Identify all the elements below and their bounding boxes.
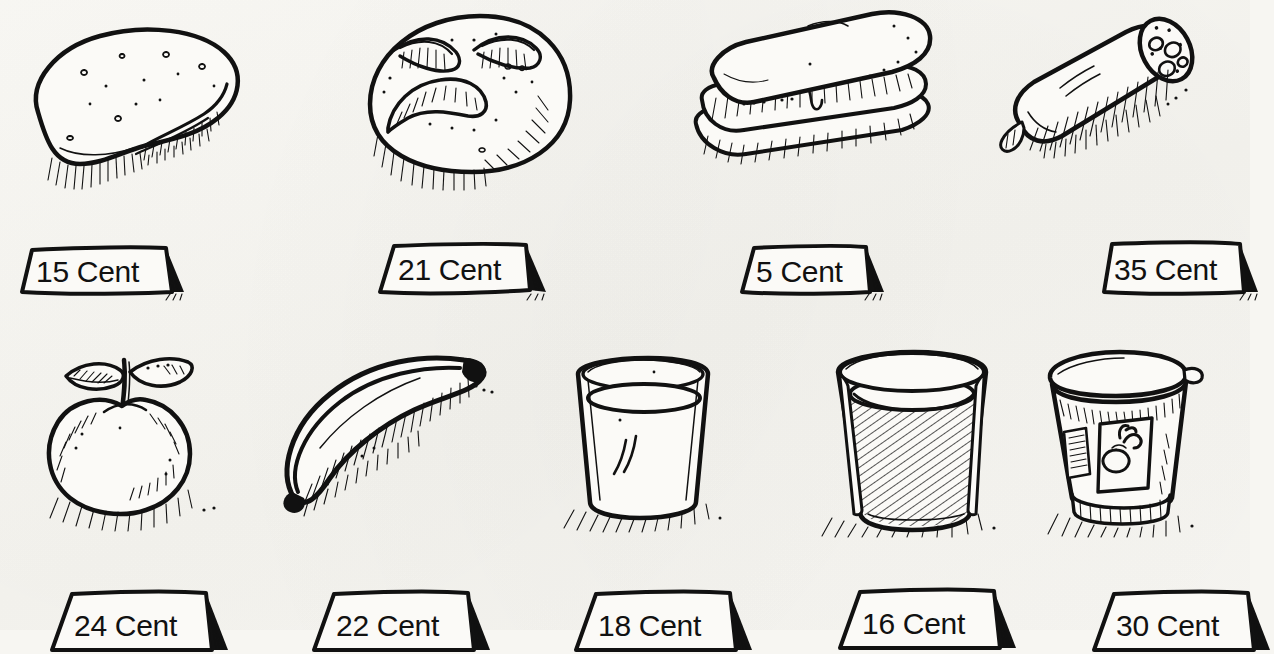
price-tag-label: 16 Cent: [862, 607, 966, 640]
price-tag-label: 21 Cent: [398, 253, 502, 286]
price-tag-card[interactable]: 15 Cent: [16, 240, 196, 302]
item-sandwich: [688, 4, 938, 189]
item-bread-roll: [18, 8, 248, 198]
yogurt-cup-icon: [1028, 342, 1228, 537]
price-tag-label: 24 Cent: [74, 609, 178, 642]
price-tag-card[interactable]: 5 Cent: [738, 240, 908, 302]
bread-roll-icon: [18, 8, 248, 198]
price-tag-label: 35 Cent: [1114, 253, 1218, 286]
price-tag-card[interactable]: 22 Cent: [310, 584, 500, 654]
price-tag-yogurt-cup[interactable]: 30 Cent: [1090, 584, 1274, 654]
price-tag-card[interactable]: 21 Cent: [376, 238, 556, 300]
price-tag-banana[interactable]: 22 Cent: [310, 584, 500, 654]
sandwich-icon: [688, 4, 938, 189]
milk-glass-icon: [556, 352, 736, 532]
price-tag-label: 15 Cent: [36, 255, 140, 288]
price-tag-card[interactable]: 30 Cent: [1090, 584, 1274, 654]
price-tag-card[interactable]: 24 Cent: [48, 584, 238, 654]
round-bread-roll-icon: [356, 0, 586, 195]
banana-icon: [268, 352, 528, 527]
price-tag-card[interactable]: 18 Cent: [572, 584, 762, 654]
juice-glass-icon: [818, 342, 1008, 537]
price-tag-label: 30 Cent: [1116, 609, 1220, 642]
price-tag-salami[interactable]: 35 Cent: [1098, 236, 1268, 300]
price-tag-card[interactable]: 16 Cent: [836, 582, 1026, 652]
price-tag-label: 5 Cent: [756, 255, 844, 288]
item-yogurt-cup: [1028, 342, 1228, 537]
price-tag-sandwich[interactable]: 5 Cent: [738, 240, 908, 302]
apple-icon: [30, 338, 240, 533]
price-tag-apple[interactable]: 24 Cent: [48, 584, 238, 654]
price-tag-label: 22 Cent: [336, 609, 440, 642]
item-banana: [268, 352, 528, 527]
item-salami: [1000, 6, 1250, 186]
item-milk-glass: [556, 352, 736, 532]
price-tag-milk-glass[interactable]: 18 Cent: [572, 584, 762, 654]
price-tag-label: 18 Cent: [598, 609, 702, 642]
item-apple: [30, 338, 240, 533]
price-tag-juice-glass[interactable]: 16 Cent: [836, 582, 1026, 652]
salami-icon: [1000, 6, 1250, 186]
item-round-roll: [356, 0, 586, 195]
price-tag-round-roll[interactable]: 21 Cent: [376, 238, 556, 300]
item-juice-glass: [818, 342, 1008, 537]
price-tag-card[interactable]: 35 Cent: [1098, 236, 1268, 300]
price-tag-bread-roll[interactable]: 15 Cent: [16, 240, 196, 302]
